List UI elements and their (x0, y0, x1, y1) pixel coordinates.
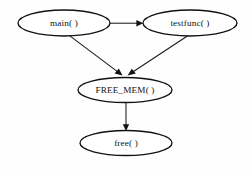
node-free-label: free( ) (114, 138, 138, 148)
edge-main-to-free-mem (69, 35, 123, 76)
node-main[interactable]: main( ) (18, 10, 110, 36)
graph-canvas: main( ) testfunc( ) FREE_MEM( ) free( ) (0, 0, 252, 170)
edge-main-to-testfunc (110, 20, 143, 26)
edge-main-to-free-mem-arrowhead (115, 69, 123, 76)
node-free[interactable]: free( ) (80, 131, 172, 156)
edge-testfunc-to-free-mem-arrowhead (128, 69, 136, 76)
edge-testfunc-to-free-mem (128, 35, 189, 75)
call-graph-diagram: main( ) testfunc( ) FREE_MEM( ) free( ) (0, 0, 252, 170)
node-main-label: main( ) (50, 18, 78, 28)
edge-main-to-testfunc-arrowhead (136, 20, 143, 26)
node-free-mem-label: FREE_MEM( ) (95, 85, 154, 95)
node-free-mem[interactable]: FREE_MEM( ) (78, 78, 172, 103)
edge-free-mem-to-free (123, 103, 129, 132)
node-testfunc[interactable]: testfunc( ) (143, 10, 237, 36)
edge-main-to-free-mem-line (69, 35, 119, 73)
edge-testfunc-to-free-mem-line (132, 35, 189, 73)
node-testfunc-label: testfunc( ) (170, 18, 209, 28)
